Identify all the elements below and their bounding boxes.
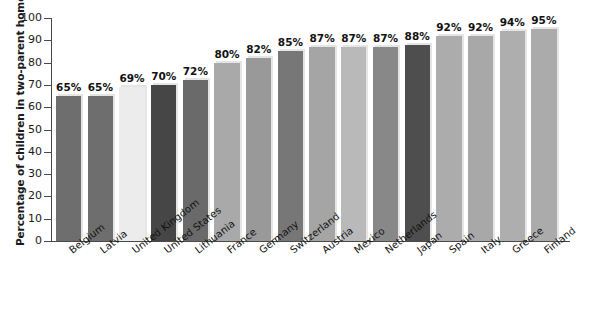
bar [500,31,525,241]
bar-group: 65% [56,18,81,241]
y-tick-mark [44,241,51,242]
bar [246,58,271,241]
bar [436,36,461,241]
y-tick-label: 20 [14,189,42,202]
bar-group: 94% [500,18,525,241]
y-tick-mark [44,18,51,19]
bar [405,45,430,241]
bar-group: 69% [119,18,144,241]
y-tick-mark [44,219,51,220]
bar-chart: Percentage of children in two-parent hom… [0,0,589,315]
bar [531,29,556,241]
y-tick-label: 90 [14,33,42,46]
bar-group: 65% [88,18,113,241]
y-tick-label: 40 [14,145,42,158]
bar-group: 95% [531,18,556,241]
bar [373,47,398,241]
bar-group: 87% [373,18,398,241]
y-tick-label: 0 [14,234,42,247]
y-tick-label: 30 [14,167,42,180]
y-tick-mark [44,152,51,153]
bar-value-label: 95% [521,14,567,26]
y-tick-mark [44,174,51,175]
y-tick-mark [44,130,51,131]
bar [56,96,81,241]
bar-group: 87% [309,18,334,241]
y-tick-label: 10 [14,212,42,225]
bar-group: 85% [278,18,303,241]
y-tick-label: 80 [14,56,42,69]
bar [119,87,144,241]
bar [468,36,493,241]
y-tick-mark [44,196,51,197]
y-tick-label: 100 [14,11,42,24]
bar [88,96,113,241]
bar [341,47,366,241]
y-tick-label: 50 [14,123,42,136]
y-tick-mark [44,107,51,108]
bar-value-label: 72% [172,65,218,77]
bar-group: 87% [341,18,366,241]
bar-group: 82% [246,18,271,241]
y-tick-label: 60 [14,100,42,113]
bar-group: 70% [151,18,176,241]
y-tick-mark [44,40,51,41]
plot-area: 65%65%69%70%72%80%82%85%87%87%87%88%92%9… [52,18,570,241]
bar [278,51,303,241]
y-tick-label: 70 [14,78,42,91]
bar-group: 88% [405,18,430,241]
bar-group: 92% [436,18,461,241]
bar-group: 92% [468,18,493,241]
y-tick-mark [44,63,51,64]
